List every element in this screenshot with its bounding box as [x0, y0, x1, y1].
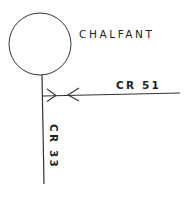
place-label: CHALFANT	[79, 28, 155, 40]
road-cr33-line	[42, 75, 44, 184]
road-cr51-line	[43, 93, 180, 96]
road-label-cr33: CR 33	[48, 124, 60, 169]
arrow-left-icon	[68, 88, 79, 101]
road-label-cr51: CR 51	[116, 79, 161, 91]
road-map: CHALFANT CR 51 CR 33	[0, 0, 189, 198]
town-marker-circle	[9, 13, 71, 75]
